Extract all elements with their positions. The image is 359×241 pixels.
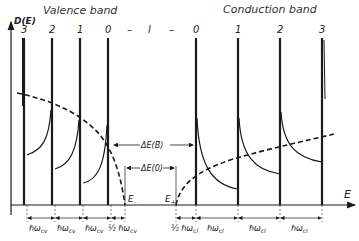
index-l-label: l	[148, 24, 151, 35]
delta-e-b-label: ΔE(B⃗)	[140, 140, 163, 150]
conduction-band-title: Conduction band	[223, 3, 318, 16]
conduction-index-1: 1	[235, 24, 241, 35]
valence-spacing-labels: ℏωcv ℏωcv ℏωcv ½ ℏωcv	[29, 224, 137, 234]
x-axis-label: E	[344, 188, 351, 201]
spacing-label-half-cv: ½ ℏωcv	[108, 224, 137, 234]
e-plus-label: E+	[165, 194, 176, 205]
conduction-landau-peaks	[196, 38, 325, 205]
valence-landau-peaks	[23, 38, 109, 205]
spacing-label-cv: ℏωcv	[57, 224, 76, 234]
valence-band-title: Valence band	[43, 4, 118, 17]
valence-index-2: 2	[49, 24, 55, 35]
spacing-label-cv: ℏωcv	[29, 224, 48, 234]
e-minus-label: E–	[128, 194, 137, 205]
dash-left: –	[127, 24, 132, 35]
spacing-label-cl: ℏωcl	[291, 224, 308, 234]
valence-index-3: 3	[21, 24, 27, 35]
middle-index-labels: – l –	[127, 24, 174, 35]
spacing-label-half-cl: ½ ℏωcl	[171, 224, 198, 234]
valence-index-1: 1	[77, 24, 83, 35]
dash-right: –	[169, 24, 174, 35]
spacing-label-cl: ℏωcl	[207, 224, 224, 234]
spacing-label-cv: ℏωcv	[85, 224, 104, 234]
valence-index-0: 0	[105, 24, 111, 35]
delta-e-0-label: ΔE(0)	[140, 164, 163, 173]
conduction-index-labels: 0 1 2 3	[193, 24, 325, 35]
conduction-index-2: 2	[277, 24, 283, 35]
spacing-label-cl: ℏωcl	[249, 224, 266, 234]
extension-lines	[27, 205, 322, 222]
delta-e-0-dimension: ΔE(0)	[127, 164, 174, 173]
delta-e-b-dimension: ΔE(B⃗)	[114, 140, 193, 150]
conduction-index-3: 3	[319, 24, 325, 35]
conduction-index-0: 0	[193, 24, 199, 35]
landau-level-density-of-states-diagram: Valence band Conduction band D(E) E 3 2 …	[0, 0, 359, 241]
conduction-spacing-labels: ½ ℏωcl ℏωcl ℏωcl ℏωcl	[171, 224, 308, 234]
